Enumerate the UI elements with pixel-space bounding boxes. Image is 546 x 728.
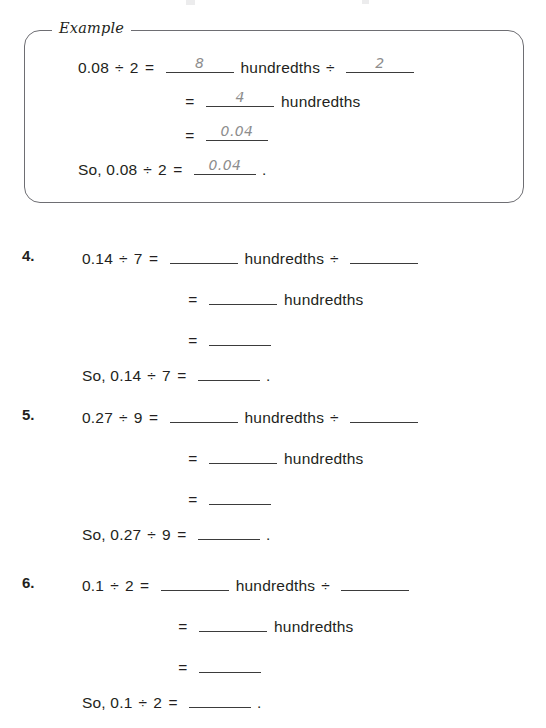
example-line-1: 0.08 ÷ 2 = 8 hundredths ÷ 2 [78,56,419,77]
division-sign-icon: ÷ [324,250,345,268]
example-line-3: = 0.04 [179,124,273,145]
example-label: Example [52,20,131,36]
dividend: 0.27 [82,409,113,427]
problem-6-blank-5[interactable] [189,691,251,708]
divisor: 7 [134,250,143,268]
division-sign-icon: ÷ [137,161,158,179]
problem-number-5: 5. [22,406,35,423]
problem-5-line-1: 0.27 ÷ 9 = hundredths ÷ [82,406,423,427]
so-prefix: So, 0.08 [78,161,137,179]
division-sign-icon: ÷ [113,409,134,427]
problem-4-blank-5[interactable] [198,364,260,381]
division-sign-icon: ÷ [141,526,162,544]
equals-sign: = [172,659,194,677]
equals-sign: = [182,491,204,509]
division-sign-icon: ÷ [141,367,162,385]
problem-6-blank-2[interactable] [341,574,409,591]
division-sign-icon: ÷ [104,577,125,595]
equals-sign: = [182,332,204,350]
scan-artifact [186,0,195,5]
division-sign-icon: ÷ [315,577,336,595]
scan-artifact [362,0,369,4]
example-line-2: = 4 hundredths [179,90,361,111]
example-answer-2: 2 [346,56,414,70]
division-sign-icon: ÷ [320,59,341,77]
problem-number-6: 6. [22,574,35,591]
period: . [262,161,267,179]
example-line-4: So, 0.08 ÷ 2 = 0.04 . [78,158,266,179]
so-prefix: So, 0.27 [82,526,141,544]
unit-label: hundredths [243,409,325,427]
example-answer-5: 0.04 [194,158,256,172]
problem-6-blank-4[interactable] [199,656,261,673]
divisor: 2 [125,577,134,595]
problem-5-blank-3[interactable] [209,447,277,464]
unit-label: hundredths [243,250,325,268]
equals-sign: = [179,93,201,111]
example-blank-5[interactable]: 0.04 [194,158,256,175]
equals-sign: = [167,161,189,179]
problem-6-line-1: 0.1 ÷ 2 = hundredths ÷ [82,574,414,595]
problem-5-blank-4[interactable] [209,488,271,505]
period: . [257,694,262,712]
equals-sign: = [139,59,161,77]
unit-label: hundredths [239,59,321,77]
example-dividend: 0.08 [78,59,109,77]
equals-sign: = [162,694,184,712]
period: . [266,367,271,385]
example-divisor: 2 [130,59,139,77]
example-blank-4[interactable]: 0.04 [206,124,268,141]
problem-6-line-2: = hundredths [172,615,354,636]
problem-number-4: 4. [22,247,35,264]
equals-sign: = [134,577,156,595]
divisor: 7 [162,367,171,385]
division-sign-icon: ÷ [109,59,130,77]
problem-4-blank-4[interactable] [209,329,271,346]
worksheet-page: Example 0.08 ÷ 2 = 8 hundredths ÷ 2 = 4 … [0,0,546,728]
divisor: 2 [153,694,162,712]
division-sign-icon: ÷ [113,250,134,268]
unit-label: hundredths [282,291,364,309]
problem-4-blank-3[interactable] [209,288,277,305]
divisor: 9 [162,526,171,544]
example-divisor: 2 [158,161,167,179]
example-blank-3[interactable]: 4 [206,90,274,107]
example-blank-1[interactable]: 8 [166,56,234,73]
unit-label: hundredths [272,618,354,636]
dividend: 0.14 [82,250,113,268]
example-answer-4: 0.04 [206,124,268,138]
problem-5-blank-5[interactable] [198,523,260,540]
problem-6-blank-3[interactable] [199,615,267,632]
dividend: 0.1 [82,577,104,595]
problem-4-blank-1[interactable] [170,247,238,264]
period: . [266,526,271,544]
equals-sign: = [171,526,193,544]
equals-sign: = [143,409,165,427]
problem-4-blank-2[interactable] [350,247,418,264]
so-prefix: So, 0.14 [82,367,141,385]
unit-label: hundredths [279,93,361,111]
equals-sign: = [172,618,194,636]
equals-sign: = [143,250,165,268]
problem-5-blank-1[interactable] [170,406,238,423]
unit-label: hundredths [282,450,364,468]
problem-5-line-4: So, 0.27 ÷ 9 = . [82,523,270,544]
divisor: 9 [134,409,143,427]
unit-label: hundredths [234,577,316,595]
problem-4-line-4: So, 0.14 ÷ 7 = . [82,364,270,385]
problem-4-line-2: = hundredths [182,288,364,309]
problem-5-blank-2[interactable] [350,406,418,423]
problem-6-blank-1[interactable] [161,574,229,591]
so-prefix: So, 0.1 [82,694,133,712]
problem-5-line-3: = [182,488,276,509]
problem-4-line-3: = [182,329,276,350]
problem-5-line-2: = hundredths [182,447,364,468]
example-blank-2[interactable]: 2 [346,56,414,73]
division-sign-icon: ÷ [324,409,345,427]
equals-sign: = [182,291,204,309]
example-answer-3: 4 [206,90,274,104]
problem-4-line-1: 0.14 ÷ 7 = hundredths ÷ [82,247,423,268]
problem-6-line-3: = [172,656,266,677]
division-sign-icon: ÷ [133,694,154,712]
equals-sign: = [182,450,204,468]
